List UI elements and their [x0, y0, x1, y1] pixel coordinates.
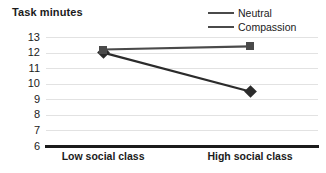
- y-axis-tick-label: 10: [12, 78, 40, 89]
- data-point-neutral: [246, 87, 255, 96]
- chart-legend: Neutral Compassion: [208, 6, 320, 34]
- series-line-compassion: [103, 46, 250, 49]
- line-chart: Task minutes Neutral Compassion 13121110…: [0, 0, 326, 173]
- y-axis-tick-label: 13: [12, 32, 40, 43]
- diamond-marker-icon: [208, 6, 234, 20]
- x-axis-tick-label: High social class: [190, 150, 310, 162]
- y-axis-tick-label: 7: [12, 125, 40, 136]
- plot-area: [46, 37, 318, 146]
- chart-title: Task minutes: [12, 6, 83, 18]
- y-axis-tick-label: 8: [12, 109, 40, 120]
- y-axis-tick-label: 12: [12, 47, 40, 58]
- data-point-compassion: [246, 42, 254, 50]
- data-point-compassion: [99, 46, 107, 54]
- legend-item-neutral: Neutral: [208, 6, 320, 20]
- series-lines: [46, 37, 318, 146]
- y-axis-tick-label: 9: [12, 94, 40, 105]
- legend-label-neutral: Neutral: [234, 7, 272, 19]
- legend-label-compassion: Compassion: [234, 21, 296, 33]
- y-axis-tick-label: 6: [12, 141, 40, 152]
- series-line-neutral: [103, 53, 250, 92]
- legend-item-compassion: Compassion: [208, 20, 320, 34]
- y-axis-tick-label: 11: [12, 63, 40, 74]
- square-marker-icon: [208, 20, 234, 34]
- x-axis-tick-label: Low social class: [43, 150, 163, 162]
